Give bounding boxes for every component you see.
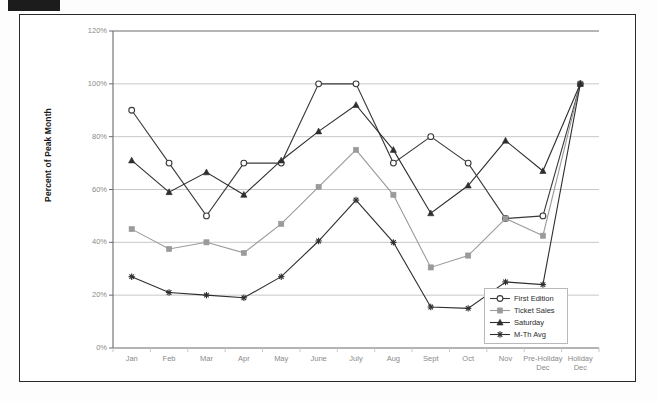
data-point-marker-star-cross [540,281,546,287]
data-point-marker-open-circle [497,295,503,301]
data-point-marker-open-circle [353,81,359,87]
data-point-marker-star-cross [577,81,583,87]
data-point-marker-star-cross [278,273,284,279]
data-point-marker-filled-square [316,184,321,189]
data-point-marker-filled-square [204,240,209,245]
data-point-marker-filled-square [466,253,471,258]
legend-marker-filled-square-icon [489,305,511,316]
data-point-marker-star-cross [166,289,172,295]
y-tick-label: 60% [73,186,107,194]
legend-label: First Edition [511,294,554,303]
data-point-marker-filled-square [166,246,171,251]
y-tick-label: 120% [73,27,107,35]
data-point-marker-open-circle [540,213,546,219]
data-point-marker-star-cross [353,197,359,203]
data-point-marker-filled-square [428,265,433,270]
data-point-marker-open-circle [465,160,471,166]
data-point-marker-filled-square [391,192,396,197]
data-point-marker-filled-square [353,147,358,152]
data-point-marker-filled-triangle [502,137,508,143]
data-point-marker-star-cross [497,331,503,337]
y-tick-label: 0% [73,344,107,352]
chart-legend: First EditionTicket SalesSaturdayM-Th Av… [484,288,568,344]
data-point-marker-filled-square [279,221,284,226]
data-point-marker-star-cross [203,292,209,298]
legend-item-m-th-avg: M-Th Avg [489,328,562,340]
legend-item-saturday: Saturday [489,316,562,328]
data-point-marker-filled-triangle [203,169,209,175]
y-tick-label: 40% [73,238,107,246]
series-line-3 [132,84,581,309]
data-point-marker-star-cross [428,304,434,310]
legend-marker-filled-triangle-icon [489,317,511,328]
data-point-marker-star-cross [241,295,247,301]
data-point-marker-filled-square [241,250,246,255]
legend-label: M-Th Avg [511,330,546,339]
x-tick-label: HolidayDec [558,354,603,372]
data-point-marker-filled-square [129,227,134,232]
page-canvas: Percent of Peak Month 0%20%40%60%80%100%… [0,0,657,401]
data-point-marker-filled-triangle [428,210,434,216]
y-axis-title: Percent of Peak Month [43,85,53,225]
data-point-marker-star-cross [128,273,134,279]
data-point-marker-star-cross [465,305,471,311]
line-chart: Percent of Peak Month 0%20%40%60%80%100%… [0,0,657,401]
y-tick-label: 80% [73,133,107,141]
legend-label: Saturday [511,318,544,327]
data-point-marker-filled-triangle [129,157,135,163]
legend-marker-open-circle-icon [489,293,511,304]
data-point-marker-open-circle [204,213,210,219]
data-point-marker-star-cross [315,238,321,244]
data-point-marker-star-cross [390,239,396,245]
data-point-marker-filled-triangle [316,128,322,134]
y-tick-label: 20% [73,291,107,299]
legend-label: Ticket Sales [511,306,555,315]
data-point-marker-open-circle [428,134,434,140]
data-point-marker-open-circle [166,160,172,166]
data-point-marker-filled-triangle [353,102,359,108]
data-point-marker-filled-square [503,216,508,221]
series-line-1 [132,84,581,268]
y-tick-label: 100% [73,80,107,88]
legend-marker-star-cross-icon [489,329,511,340]
legend-item-ticket-sales: Ticket Sales [489,304,562,316]
data-point-marker-open-circle [129,107,135,113]
data-point-marker-open-circle [316,81,322,87]
data-point-marker-open-circle [390,160,396,166]
data-point-marker-filled-square [497,307,502,312]
data-point-marker-star-cross [502,279,508,285]
legend-item-first-edition: First Edition [489,292,562,304]
data-point-marker-filled-square [540,233,545,238]
data-point-marker-open-circle [241,160,247,166]
